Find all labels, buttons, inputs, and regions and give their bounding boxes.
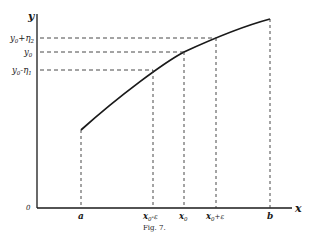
figure-caption: Fig. 7. (143, 224, 166, 232)
x-tick-x0-plus-eps: x0+ε (205, 211, 224, 222)
y-axis-label: y (27, 10, 36, 23)
origin-label: 0 (26, 204, 31, 212)
function-curve (81, 19, 270, 130)
x-tick-b: b (267, 211, 273, 221)
x-axis-label: x (294, 202, 302, 215)
x-tick-x0-minus-eps: x0-ε (142, 211, 158, 222)
y-tick-y0: y0 (23, 47, 33, 58)
x-tick-a: a (78, 211, 84, 221)
function-continuity-diagram: y x 0 y0+η2 y0 y0-η1 a x0-ε x0 x0+ε b Fi… (0, 0, 310, 239)
x-tick-x0: x0 (178, 211, 188, 222)
y-tick-y0-plus-eta2: y0+η2 (9, 33, 35, 44)
y-tick-y0-minus-eta1: y0-η1 (11, 65, 32, 76)
